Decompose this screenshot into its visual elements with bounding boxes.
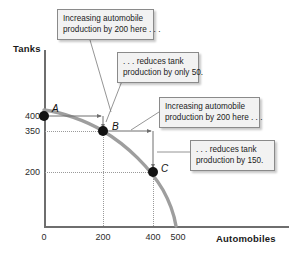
- callout-3-line-2: production by 200 here . . .: [165, 112, 254, 123]
- callout-2-line-1: . . . reduces tank: [123, 56, 193, 67]
- leader-line-callout-1: [90, 40, 111, 112]
- x-axis-title: Automobiles: [216, 233, 276, 244]
- callout-box-1: Increasing automobile production by 200 …: [57, 9, 154, 40]
- data-point-b: [98, 126, 108, 136]
- y-axis-title: Tanks: [13, 43, 41, 54]
- callout-1-line-2: production by 200 here . . .: [63, 24, 148, 35]
- data-point-c: [148, 167, 158, 177]
- data-point-a: [39, 111, 49, 121]
- callout-4-line-1: . . . reduces tank: [196, 144, 269, 155]
- x-axis-line: [44, 226, 289, 228]
- data-point-label-c: C: [161, 163, 168, 174]
- y-tick-label-200: 200: [14, 167, 40, 177]
- callout-box-2: . . . reduces tank production by only 50…: [117, 52, 199, 83]
- gridline-horizontal-200: [45, 172, 154, 173]
- ppf-chart-figure: Tanks Automobiles 400 350 200 0 200 400 …: [0, 0, 307, 264]
- gridline-vertical-400: [153, 172, 154, 226]
- x-tick-label-200: 200: [90, 232, 116, 242]
- data-point-label-a: A: [52, 103, 59, 114]
- gridline-horizontal-350: [45, 131, 104, 132]
- callout-4-line-2: production by 150.: [196, 155, 269, 166]
- callout-1-line-1: Increasing automobile: [63, 13, 148, 24]
- callout-2-line-2: production by only 50.: [123, 67, 193, 78]
- data-point-label-b: B: [112, 121, 119, 132]
- leader-line-callout-3: [131, 112, 159, 130]
- callout-3-line-1: Increasing automobile: [165, 101, 254, 112]
- x-tick-label-0: 0: [31, 232, 57, 242]
- x-tick-label-400: 400: [140, 232, 166, 242]
- y-tick-label-350: 350: [14, 126, 40, 136]
- leader-line-callout-2: [106, 81, 122, 122]
- x-tick-label-500: 500: [165, 232, 191, 242]
- y-tick-label-400: 400: [14, 111, 40, 121]
- y-axis-line: [44, 50, 46, 227]
- callout-box-4: . . . reduces tank production by 150.: [190, 140, 275, 171]
- gridline-vertical-200: [103, 131, 104, 226]
- callout-box-3: Increasing automobile production by 200 …: [159, 97, 260, 128]
